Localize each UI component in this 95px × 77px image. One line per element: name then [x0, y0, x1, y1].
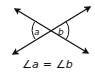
angle-symbol-left: ∠ [22, 58, 32, 71]
equation-operator: = [39, 58, 56, 71]
equation: ∠a = ∠b [0, 58, 95, 71]
angle-label-b: b [58, 27, 64, 37]
angle-arc-b [66, 22, 69, 40]
angle-label-a: a [34, 27, 40, 37]
equation-var-a: a [32, 58, 39, 71]
equation-var-b: b [66, 58, 73, 71]
angle-symbol-right: ∠ [56, 58, 66, 71]
